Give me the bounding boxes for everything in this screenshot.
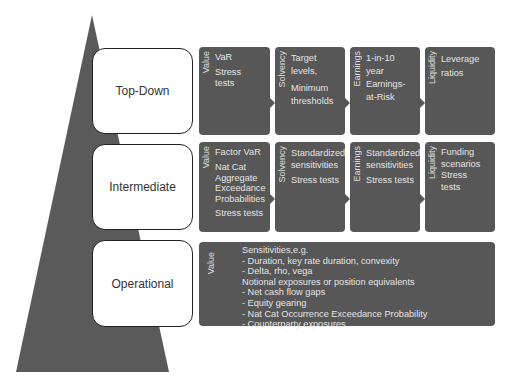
panel-item: Factor VaR <box>215 147 268 158</box>
panel-item: - Nat Cat Occurrence Exceedance Probabil… <box>242 309 493 320</box>
panel-item: Stress tests <box>441 170 471 193</box>
category-label: Value <box>206 252 217 274</box>
panel-item: VaR <box>215 52 268 63</box>
category-label: Solvency <box>277 51 288 88</box>
category-label: Value <box>201 146 212 168</box>
panel-item: Stress tests <box>366 175 418 186</box>
panel-top-down-solvency: Solvency Target levels, Minimum threshol… <box>275 47 345 135</box>
panel-item: Sensitivities,e.g. <box>242 245 493 256</box>
category-label: Solvency <box>277 146 288 183</box>
panel-intermediate-liquidity: Liquidity Funding scenarios Stress tests <box>425 142 495 232</box>
category-label: Liquidity <box>427 51 438 84</box>
level-top-down: Top-Down <box>92 48 193 134</box>
panel-item: - Delta, rho, vega <box>242 266 493 277</box>
panel-item: Minimum thresholds <box>291 82 339 108</box>
panel-item: - Equity gearing <box>242 298 493 309</box>
panel-item: Leverage ratios <box>441 52 485 80</box>
panel-item: Standardized sensitivities <box>366 147 418 171</box>
panel-item: Standardized sensitivities <box>291 147 343 171</box>
level-label: Intermediate <box>109 180 176 194</box>
panel-item: - Net cash flow gaps <box>242 287 493 298</box>
panel-item: - Duration, key rate duration, convexity <box>242 256 493 267</box>
panel-item: Stress tests <box>215 208 268 219</box>
level-intermediate: Intermediate <box>92 144 193 230</box>
panel-item: Nat Cat Aggregate Exceedance Probabiliti… <box>215 162 265 204</box>
level-operational: Operational <box>92 240 193 327</box>
level-label: Operational <box>111 277 173 291</box>
category-label: Earnings <box>352 51 363 87</box>
panel-item: - Counterparty exposures <box>242 319 493 330</box>
panel-item: Stress tests <box>215 67 255 89</box>
panel-top-down-value: Value VaR Stress tests <box>199 47 270 135</box>
panel-intermediate-solvency: Solvency Standardized sensitivities Stre… <box>275 142 345 232</box>
panel-operational-value: Value Sensitivities,e.g. - Duration, key… <box>199 242 495 326</box>
panel-item: Notional exposures or position equivalen… <box>242 277 493 288</box>
panel-intermediate-value: Value Factor VaR Nat Cat Aggregate Excee… <box>199 142 270 232</box>
panel-item: Target levels, <box>291 52 331 78</box>
category-label: Earnings <box>352 146 363 182</box>
level-label: Top-Down <box>115 84 169 98</box>
panel-intermediate-earnings: Earnings Standardized sensitivities Stre… <box>350 142 420 232</box>
panel-top-down-earnings: Earnings 1-in-10 year Earnings-at-Risk <box>350 47 420 135</box>
panel-item: Funding scenarios <box>441 147 485 170</box>
category-label: Liquidity <box>427 146 438 179</box>
panel-top-down-liquidity: Liquidity Leverage ratios <box>425 47 495 135</box>
panel-item: Stress tests <box>291 175 343 186</box>
category-label: Value <box>201 51 212 73</box>
panel-item: 1-in-10 year Earnings-at-Risk <box>366 52 412 104</box>
